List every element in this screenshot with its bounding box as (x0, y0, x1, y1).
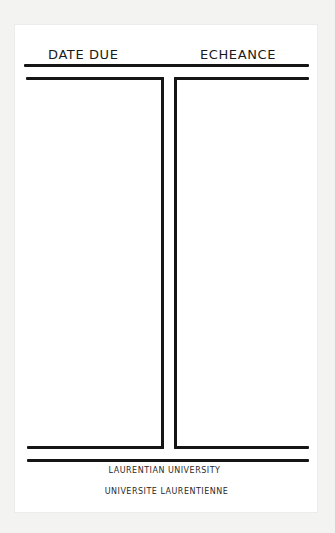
left-column-bottom-rule (27, 446, 164, 449)
date-due-heading: DATE DUE (48, 47, 119, 62)
footer-french-name: UNIVERSITE LAURENTIENNE (0, 487, 334, 496)
left-column-divider (161, 77, 164, 449)
top-rule (24, 64, 309, 67)
right-column-divider (174, 77, 177, 449)
bottom-rule (27, 459, 309, 462)
echeance-column (178, 81, 308, 445)
echeance-heading: ECHEANCE (200, 47, 276, 62)
left-column-top-rule (26, 77, 164, 80)
page: DATE DUE ECHEANCE LAURENTIAN UNIVERSITY … (0, 0, 335, 533)
footer-english-name: LAURENTIAN UNIVERSITY (0, 466, 332, 475)
right-column-bottom-rule (174, 446, 309, 449)
date-due-column (27, 81, 160, 445)
right-column-top-rule (174, 77, 309, 80)
